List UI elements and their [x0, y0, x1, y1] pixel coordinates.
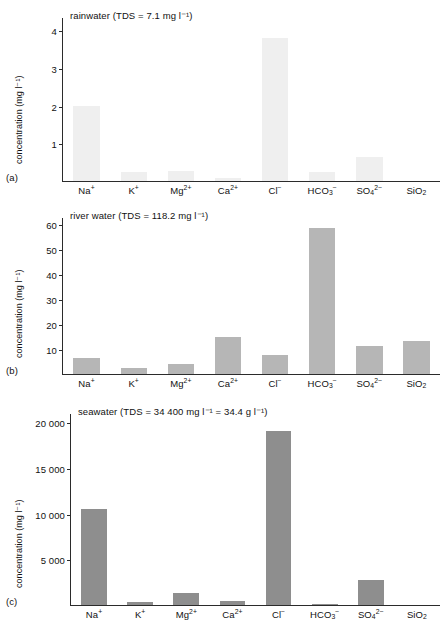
x-axis-label-riverwater-4: Cl− [252, 378, 299, 389]
bar-seawater-6 [358, 580, 384, 605]
y-axis-tick-label-rainwater-3: 4 [52, 26, 57, 37]
y-axis-tick-riverwater-3 [59, 275, 63, 276]
x-axis-labels-riverwater: Na+K+Mg2+Ca2+Cl−HCO3−SO42−SiO2 [63, 374, 440, 389]
bar-cell [63, 18, 110, 181]
chart-panel-rainwater: (a) concentration (mg l⁻¹) rainwater (TD… [0, 4, 448, 200]
bar-riverwater-0 [73, 358, 99, 374]
y-axis-tick-rainwater-0 [59, 144, 63, 145]
x-axis-label-riverwater-3: Ca2+ [204, 378, 251, 389]
y-axis-tick-label-seawater-0: 5 000 [41, 555, 65, 566]
y-axis-tick-label-rainwater-0: 1 [52, 139, 57, 150]
x-axis-label-rainwater-0: Na+ [63, 185, 110, 196]
y-axis-tick-riverwater-1 [59, 325, 63, 326]
x-axis-label-seawater-4: Cl− [256, 609, 302, 620]
bar-cell [63, 218, 110, 374]
y-axis-tick-label-riverwater-1: 20 [46, 320, 57, 331]
bar-cell [299, 218, 346, 374]
bar-cell [299, 18, 346, 181]
bar-cell [346, 218, 393, 374]
x-axis-label-seawater-1: K+ [117, 609, 163, 620]
bar-cell [394, 414, 440, 605]
bar-cell [348, 414, 394, 605]
plot-area-seawater: seawater (TDS = 34 400 mg l⁻¹ = 34.4 g l… [70, 414, 440, 606]
y-axis-tick-rainwater-2 [59, 69, 63, 70]
bar-cell [157, 18, 204, 181]
x-axis-label-riverwater-0: Na+ [63, 378, 110, 389]
bar-cell [256, 414, 302, 605]
y-axis-tick-label-riverwater-0: 10 [46, 345, 57, 356]
y-axis-tick-label-seawater-1: 10 000 [35, 509, 65, 520]
y-axis-tick-label-riverwater-2: 30 [46, 295, 57, 306]
y-axis-tick-seawater-2 [67, 469, 71, 470]
bar-cell [252, 218, 299, 374]
chart-panel-riverwater: (b) concentration (mg l⁻¹) river water (… [0, 206, 448, 396]
bar-cell [204, 18, 251, 181]
y-axis-tick-seawater-3 [67, 423, 71, 424]
bar-riverwater-2 [168, 364, 194, 374]
bar-cell [110, 18, 157, 181]
x-axis-label-riverwater-7: SiO2 [393, 378, 440, 389]
x-axis-label-seawater-5: HCO3− [302, 609, 348, 620]
y-axis-tick-rainwater-3 [59, 31, 63, 32]
bar-rainwater-1 [121, 172, 147, 181]
plot-area-rainwater: rainwater (TDS = 7.1 mg l⁻¹) Na+K+Mg2+Ca… [62, 18, 440, 182]
x-axis-label-riverwater-1: K+ [110, 378, 157, 389]
bar-riverwater-3 [215, 337, 241, 374]
y-axis-tick-label-riverwater-3: 40 [46, 270, 57, 281]
x-axis-label-seawater-0: Na+ [71, 609, 117, 620]
bar-cell [393, 218, 440, 374]
bar-cell [117, 414, 163, 605]
x-axis-labels-rainwater: Na+K+Mg2+Ca2+Cl−HCO3−SO42−SiO2 [63, 181, 440, 196]
x-axis-label-seawater-3: Ca2+ [209, 609, 255, 620]
y-axis-tick-label-riverwater-4: 50 [46, 245, 57, 256]
bar-series-rainwater [63, 18, 440, 181]
bar-seawater-4 [266, 431, 292, 605]
bar-rainwater-0 [73, 106, 99, 181]
y-axis-tick-label-seawater-3: 20 000 [35, 418, 65, 429]
y-axis-tick-label-rainwater-1: 2 [52, 101, 57, 112]
bar-cell [71, 414, 117, 605]
y-axis-tick-label-rainwater-2: 3 [52, 63, 57, 74]
x-axis-label-rainwater-1: K+ [110, 185, 157, 196]
bar-cell [209, 414, 255, 605]
chart-panel-seawater: (c) concentration (mg l⁻¹) seawater (TDS… [0, 398, 448, 630]
bar-riverwater-5 [309, 228, 335, 374]
x-axis-label-rainwater-3: Ca2+ [204, 185, 251, 196]
x-axis-label-riverwater-5: HCO3− [299, 378, 346, 389]
y-axis-tick-label-seawater-2: 15 000 [35, 463, 65, 474]
x-axis-labels-seawater: Na+K+Mg2+Ca2+Cl−HCO3−SO42−SiO2 [71, 605, 440, 620]
bar-riverwater-6 [356, 346, 382, 374]
panel-label-a: (a) [6, 172, 18, 183]
y-axis-tick-seawater-0 [67, 560, 71, 561]
bar-cell [302, 414, 348, 605]
bar-rainwater-6 [356, 157, 382, 182]
x-axis-label-rainwater-5: HCO3− [299, 185, 346, 196]
x-axis-label-riverwater-6: SO42− [346, 378, 393, 389]
plot-area-riverwater: river water (TDS = 118.2 mg l⁻¹) Na+K+Mg… [62, 218, 440, 375]
bar-riverwater-4 [262, 355, 288, 374]
y-axis-tick-riverwater-5 [59, 225, 63, 226]
bar-cell [252, 18, 299, 181]
panel-label-b: (b) [6, 365, 18, 376]
bar-seawater-2 [173, 593, 199, 605]
x-axis-label-riverwater-2: Mg2+ [157, 378, 204, 389]
x-axis-label-rainwater-7: SiO2 [393, 185, 440, 196]
bar-series-riverwater [63, 218, 440, 374]
y-axis-tick-riverwater-0 [59, 350, 63, 351]
panel-label-c: (c) [6, 596, 17, 607]
x-axis-label-rainwater-6: SO42− [346, 185, 393, 196]
y-axis-tick-rainwater-1 [59, 107, 63, 108]
bar-series-seawater [71, 414, 440, 605]
bar-cell [393, 18, 440, 181]
y-axis-tick-riverwater-2 [59, 300, 63, 301]
bar-rainwater-4 [262, 38, 288, 181]
x-axis-label-seawater-7: SiO2 [394, 609, 440, 620]
x-axis-label-rainwater-2: Mg2+ [157, 185, 204, 196]
bar-riverwater-7 [403, 341, 429, 374]
bar-cell [346, 18, 393, 181]
bar-rainwater-2 [168, 171, 194, 181]
bar-rainwater-5 [309, 172, 335, 181]
bar-cell [110, 218, 157, 374]
x-axis-label-seawater-6: SO42− [348, 609, 394, 620]
x-axis-label-seawater-2: Mg2+ [163, 609, 209, 620]
